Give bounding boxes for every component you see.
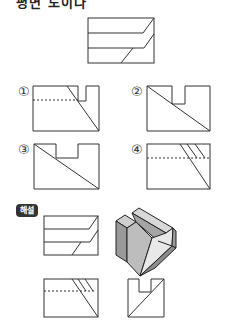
- choice-4-label[interactable]: ④: [131, 142, 143, 157]
- explanation-side-view: [128, 279, 164, 317]
- explanation-front-view: [44, 279, 98, 317]
- choice-3-label[interactable]: ③: [18, 142, 30, 157]
- choice-2-drawing[interactable]: [147, 86, 210, 131]
- given-plan-view: [88, 18, 154, 63]
- isometric-view: [116, 208, 176, 276]
- choice-3-drawing[interactable]: [34, 144, 99, 189]
- choice-4-drawing[interactable]: [147, 144, 210, 189]
- choice-1-label[interactable]: ①: [18, 84, 30, 99]
- drawing-canvas: ① ② ③ ④: [0, 0, 226, 334]
- choice-1-drawing[interactable]: [33, 86, 99, 131]
- explanation-plan-view: [44, 216, 98, 255]
- choice-2-label[interactable]: ②: [131, 84, 143, 99]
- explanation-badge: 해설: [16, 204, 38, 217]
